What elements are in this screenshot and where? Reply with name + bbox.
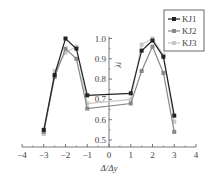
data-point-marker xyxy=(85,107,89,111)
legend-marker xyxy=(172,41,176,45)
data-point-marker xyxy=(140,43,144,47)
x-tick-label: −3 xyxy=(39,150,49,160)
x-tick-label: −1 xyxy=(82,150,92,160)
x-tick-label: 0 xyxy=(107,150,112,160)
data-point-marker xyxy=(151,45,155,49)
legend-label: KJ2 xyxy=(182,26,197,36)
y-tick-label: 0.6 xyxy=(95,115,107,125)
data-point-marker xyxy=(74,57,78,61)
legend-label: KJ1 xyxy=(182,14,197,24)
data-point-marker xyxy=(172,114,176,118)
data-point-marker xyxy=(42,128,46,132)
x-tick-label: −4 xyxy=(17,150,27,160)
data-point-marker xyxy=(129,101,133,105)
data-point-marker xyxy=(172,130,176,134)
data-point-marker xyxy=(161,71,165,75)
data-point-marker xyxy=(64,37,68,41)
x-tick-label: 3 xyxy=(172,150,177,160)
y-tick-label: 0.9 xyxy=(95,54,107,64)
data-point-marker xyxy=(74,47,78,51)
legend-marker xyxy=(172,29,176,33)
y-tick-label: 1.0 xyxy=(95,34,107,44)
legend-marker xyxy=(172,17,176,21)
legend: KJ1KJ2KJ3 xyxy=(164,10,204,51)
x-tick-label: 4 xyxy=(194,150,199,160)
x-tick-label: 2 xyxy=(150,150,155,160)
y-tick-label: 0.5 xyxy=(95,135,107,145)
data-point-marker xyxy=(64,47,68,51)
y-axis-label: λi xyxy=(114,62,123,69)
data-point-marker xyxy=(85,93,89,97)
data-point-marker xyxy=(161,55,165,59)
legend-label: KJ3 xyxy=(182,38,197,48)
line-chart: −4−3−2−101234Δ/Δy0.50.60.70.80.91.0λi KJ… xyxy=(0,0,216,191)
x-tick-label: −2 xyxy=(61,150,71,160)
data-point-marker xyxy=(129,91,133,95)
x-axis-label: Δ/Δy xyxy=(99,163,117,173)
y-tick-label: 0.8 xyxy=(95,74,107,84)
data-point-marker xyxy=(53,73,57,77)
data-point-marker xyxy=(140,49,144,53)
x-tick-label: 1 xyxy=(129,150,134,160)
data-point-marker xyxy=(151,39,155,43)
data-point-marker xyxy=(140,69,144,73)
